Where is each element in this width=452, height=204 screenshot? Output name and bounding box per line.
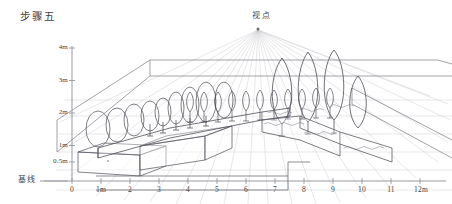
x-tick-5: 5 xyxy=(207,186,227,194)
sketch-canvas: 步骤五 视点 基线 4m 3m 2m 1m 0.5m 0 1m 2 3 4 5 … xyxy=(0,0,452,204)
small-tree-stems-middle xyxy=(187,108,333,122)
x-tick-2: 2 xyxy=(120,186,140,194)
x-tick-8: 8 xyxy=(294,186,314,194)
y-tick-3m: 3m xyxy=(48,77,68,84)
x-tick-6: 6 xyxy=(236,186,256,194)
x-tick-1m: 1m xyxy=(91,186,111,194)
drawing-stage: 步骤五 视点 基线 4m 3m 2m 1m 0.5m 0 1m 2 3 4 5 … xyxy=(0,0,452,204)
x-tick-11: 11 xyxy=(381,186,401,194)
x-tick-0: 0 xyxy=(62,186,82,194)
vanishing-point-label: 视点 xyxy=(252,12,271,20)
vanishing-point-dot xyxy=(257,28,260,31)
perspective-sketch xyxy=(0,0,452,204)
x-tick-7: 7 xyxy=(265,186,285,194)
page-title: 步骤五 xyxy=(20,12,56,23)
x-tick-4: 4 xyxy=(178,186,198,194)
x-tick-12m: 12m xyxy=(408,186,434,194)
y-tick-4m: 4m xyxy=(48,44,68,51)
y-tick-0-5m: 0.5m xyxy=(38,158,68,165)
x-tick-9: 9 xyxy=(323,186,343,194)
y-tick-1m: 1m xyxy=(48,142,68,149)
baseline-label: 基线 xyxy=(18,176,36,184)
x-tick-3: 3 xyxy=(149,186,169,194)
y-tick-2m: 2m xyxy=(48,109,68,116)
x-tick-10: 10 xyxy=(352,186,372,194)
